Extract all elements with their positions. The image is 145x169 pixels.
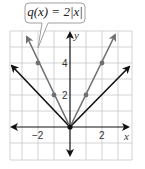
tick-label-x-neg2: −2 xyxy=(32,131,43,141)
point-neg1-2 xyxy=(52,93,57,98)
y-axis-label: y xyxy=(74,30,79,41)
tick-label-y-2: 2 xyxy=(62,91,68,101)
tick-label-y-4: 4 xyxy=(62,59,68,69)
x-axis-label: x xyxy=(124,131,129,142)
callout-label: q(x) = 2|x| xyxy=(26,3,84,21)
axes xyxy=(12,33,128,155)
point-1-2 xyxy=(84,93,89,98)
point-2-4 xyxy=(100,61,105,66)
graph-canvas xyxy=(0,0,145,169)
point-origin xyxy=(67,124,72,129)
grid xyxy=(10,31,132,160)
tick-label-x-2: 2 xyxy=(99,131,105,141)
point-neg2-4 xyxy=(36,61,41,66)
